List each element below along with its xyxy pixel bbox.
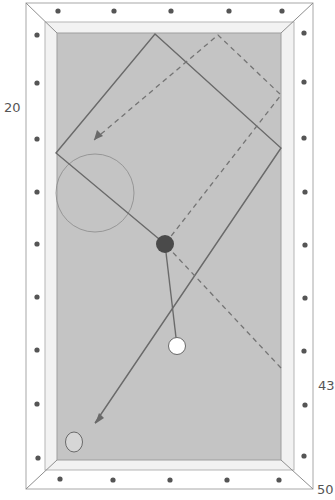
label-43: 43	[318, 378, 335, 393]
label-50: 50	[317, 482, 334, 497]
target-ball	[66, 432, 83, 452]
object-ball	[156, 235, 174, 253]
cue-ball	[169, 338, 186, 355]
label-20: 20	[4, 100, 21, 115]
billiards-table-diagram	[0, 0, 335, 500]
